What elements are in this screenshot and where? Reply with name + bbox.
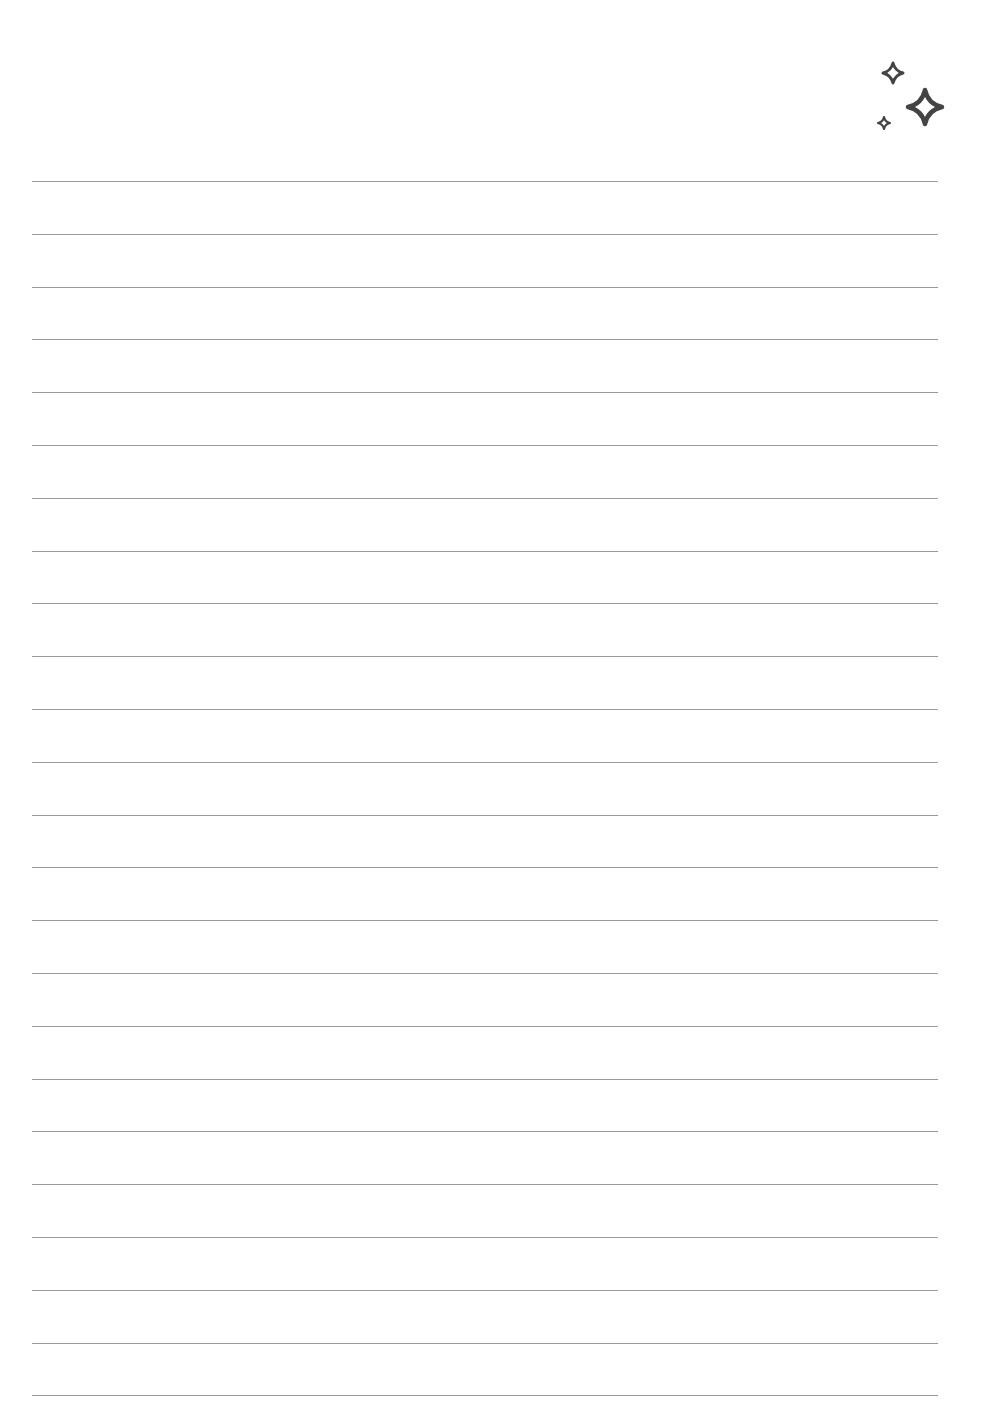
ruled-line <box>32 1395 938 1396</box>
ruled-line <box>32 234 938 235</box>
ruled-line <box>32 181 938 182</box>
ruled-line <box>32 339 938 340</box>
star-large-icon <box>908 90 942 124</box>
sparkles-icon <box>870 55 960 140</box>
ruled-line <box>32 1184 938 1185</box>
ruled-line <box>32 392 938 393</box>
ruled-line <box>32 287 938 288</box>
ruled-line <box>32 973 938 974</box>
ruled-line <box>32 551 938 552</box>
ruled-line <box>32 603 938 604</box>
ruled-line <box>32 1290 938 1291</box>
ruled-line <box>32 445 938 446</box>
ruled-line <box>32 1079 938 1080</box>
ruled-line <box>32 656 938 657</box>
star-medium-icon <box>883 63 903 83</box>
ruled-line <box>32 1131 938 1132</box>
ruled-line <box>32 762 938 763</box>
ruled-line <box>32 815 938 816</box>
ruled-line <box>32 920 938 921</box>
star-small-icon <box>878 117 890 129</box>
ruled-line <box>32 709 938 710</box>
ruled-line <box>32 1026 938 1027</box>
ruled-line <box>32 867 938 868</box>
ruled-line <box>32 498 938 499</box>
ruled-line <box>32 1343 938 1344</box>
ruled-line <box>32 1237 938 1238</box>
